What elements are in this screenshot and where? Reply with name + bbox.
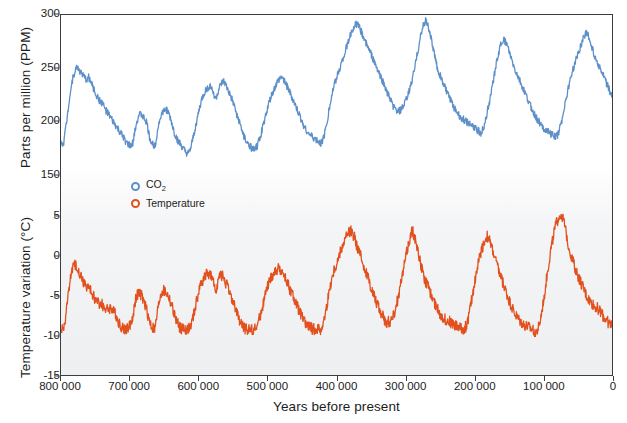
x-tick-label: 700 000 — [108, 381, 150, 393]
y-tick-label: 150 — [8, 169, 60, 181]
y-tick-mark — [54, 121, 59, 122]
x-tick-label: 600 000 — [177, 381, 219, 393]
co2-axis-title: Parts per million (PPM) — [18, 27, 33, 168]
x-tick-label: 500 000 — [247, 381, 289, 393]
x-tick-mark — [406, 376, 407, 381]
co2-line-series — [61, 18, 613, 157]
y-tick-mark — [54, 256, 59, 257]
y-tick-label: 0 — [8, 250, 60, 262]
temperature-legend-label: Temperature — [146, 198, 205, 209]
x-tick-mark — [267, 376, 268, 381]
x-tick-mark — [475, 376, 476, 381]
y-tick-mark — [54, 14, 59, 15]
x-tick-label: 400 000 — [316, 381, 358, 393]
plot-area: CO2 Temperature — [60, 14, 613, 376]
co2-legend-label: CO2 — [146, 179, 166, 193]
x-tick-label: 200 000 — [454, 381, 496, 393]
y-tick-label: 300 — [8, 8, 60, 20]
y-tick-label: -5 — [8, 290, 60, 302]
y-tick-mark — [54, 175, 59, 176]
x-tick-label: 0 — [610, 381, 616, 393]
co2-legend-marker — [131, 182, 140, 191]
temperature-axis-title: Temperature variation (°C) — [18, 217, 33, 378]
y-tick-label: -10 — [8, 330, 60, 342]
x-axis-title: Years before present — [60, 399, 613, 414]
y-tick-mark — [54, 296, 59, 297]
y-tick-mark — [54, 67, 59, 68]
x-tick-mark — [544, 376, 545, 381]
x-tick-label: 100 000 — [523, 381, 565, 393]
y-tick-mark — [54, 336, 59, 337]
x-tick-mark — [198, 376, 199, 381]
climate-chart-figure: CO2 Temperature 30025020015050-5-10-15 P… — [0, 0, 627, 423]
legend-item-co2: CO2 — [131, 179, 205, 193]
y-tick-mark — [54, 376, 59, 377]
temperature-legend-marker — [131, 199, 140, 208]
x-tick-label: 300 000 — [385, 381, 427, 393]
x-tick-mark — [613, 376, 614, 381]
legend-item-temperature: Temperature — [131, 196, 205, 210]
x-tick-mark — [129, 376, 130, 381]
temperature-line-series — [61, 214, 613, 336]
y-tick-label: 200 — [8, 116, 60, 128]
chart-legend: CO2 Temperature — [131, 179, 205, 213]
x-tick-label: 800 000 — [39, 381, 81, 393]
x-tick-mark — [60, 376, 61, 381]
y-tick-label: 5 — [8, 210, 60, 222]
y-tick-label: 250 — [8, 62, 60, 74]
y-tick-mark — [54, 216, 59, 217]
x-tick-mark — [337, 376, 338, 381]
